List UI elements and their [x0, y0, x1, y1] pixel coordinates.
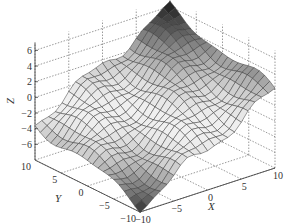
svg-text:6: 6 — [27, 45, 32, 56]
z-axis-label: Z — [4, 97, 16, 104]
y-axis-label: Y — [55, 192, 63, 204]
svg-text:10: 10 — [21, 161, 31, 172]
svg-text:0: 0 — [79, 187, 84, 198]
svg-text:0: 0 — [27, 92, 32, 103]
svg-text:−10: −10 — [120, 213, 136, 224]
svg-text:−2: −2 — [21, 108, 32, 119]
svg-text:−4: −4 — [21, 123, 32, 134]
svg-text:2: 2 — [27, 76, 32, 87]
svg-text:−6: −6 — [21, 139, 32, 150]
svg-text:−5: −5 — [99, 200, 110, 211]
surface-mesh — [35, 1, 275, 212]
svg-text:5: 5 — [52, 174, 57, 185]
svg-text:5: 5 — [242, 181, 247, 192]
svg-text:−10: −10 — [135, 214, 151, 224]
svg-text:10: 10 — [273, 170, 283, 181]
x-axis-label: X — [207, 200, 216, 212]
svg-text:−5: −5 — [171, 203, 182, 214]
svg-text:4: 4 — [27, 61, 32, 72]
surface-plot: −6−4−20246−10−50510−10−50510 X Y Z — [0, 0, 297, 224]
